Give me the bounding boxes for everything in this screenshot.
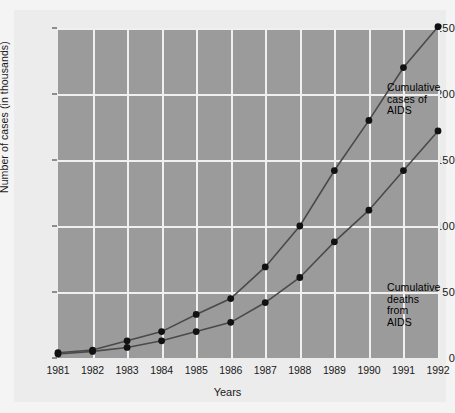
y-tick-mark: [52, 27, 57, 29]
x-tick-label: 1991: [392, 364, 415, 376]
data-point-marker: [124, 337, 131, 344]
data-point-marker: [331, 167, 338, 174]
data-point-marker: [89, 348, 96, 355]
data-point-marker: [366, 117, 373, 124]
data-point-marker: [400, 167, 407, 174]
data-point-marker: [124, 344, 131, 351]
series-2: [55, 128, 442, 358]
y-tick-mark: [52, 159, 57, 161]
data-point-marker: [262, 264, 269, 271]
x-axis-title: Years: [0, 386, 455, 398]
x-tick-label: 1981: [47, 364, 70, 376]
data-point-marker: [193, 328, 200, 335]
y-tick-mark: [52, 93, 57, 95]
data-point-marker: [400, 64, 407, 71]
data-point-marker: [262, 299, 269, 306]
y-tick-mark: [52, 357, 57, 359]
x-tick-label: 1992: [427, 364, 450, 376]
data-series-layer: [58, 28, 438, 358]
data-point-marker: [158, 328, 165, 335]
plot-area: Cumulative cases of AIDS Cumulative deat…: [58, 28, 438, 358]
data-point-marker: [366, 207, 373, 214]
x-tick-label: 1989: [323, 364, 346, 376]
x-tick-label: 1987: [254, 364, 277, 376]
data-point-marker: [55, 351, 62, 358]
annotation-cumulative-cases: Cumulative cases of AIDS: [387, 82, 441, 117]
data-point-marker: [296, 223, 303, 230]
data-point-marker: [193, 311, 200, 318]
y-axis-title: Number of cases (in thousands): [0, 41, 10, 193]
series-1: [55, 23, 442, 356]
series-line: [58, 27, 438, 353]
y-tick-mark: [52, 225, 57, 227]
data-point-marker: [435, 128, 442, 135]
data-point-marker: [296, 274, 303, 281]
data-point-marker: [227, 295, 234, 302]
y-tick-mark: [52, 291, 57, 293]
x-tick-label: 1983: [116, 364, 139, 376]
x-tick-label: 1985: [185, 364, 208, 376]
x-tick-label: 1982: [81, 364, 104, 376]
series-line: [58, 131, 438, 354]
x-tick-label: 1990: [357, 364, 380, 376]
data-point-marker: [435, 23, 442, 30]
x-tick-label: 1986: [219, 364, 242, 376]
x-tick-label: 1984: [150, 364, 173, 376]
data-point-marker: [227, 319, 234, 326]
data-point-marker: [158, 337, 165, 344]
x-tick-label: 1988: [288, 364, 311, 376]
data-point-marker: [331, 238, 338, 245]
annotation-cumulative-deaths: Cumulative deaths from AIDS: [387, 282, 441, 328]
aids-cumulative-chart: Number of cases (in thousands) 050100150…: [0, 0, 455, 413]
